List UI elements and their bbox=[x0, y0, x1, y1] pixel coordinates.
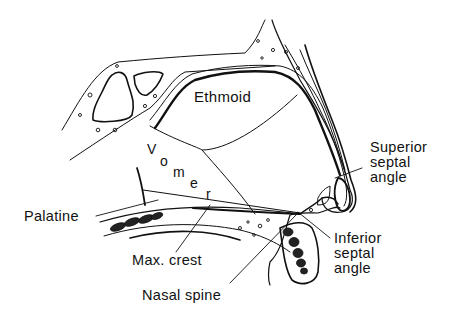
palate-lower-2 bbox=[130, 231, 240, 240]
label-superior-septal-angle: Superior septal angle bbox=[370, 140, 427, 185]
label-vomer-letter-r: r bbox=[206, 186, 211, 202]
label-vomer-letter-v: V bbox=[147, 141, 156, 157]
skull-base-inner bbox=[70, 66, 275, 160]
label-vomer-letter-e: e bbox=[190, 175, 198, 191]
label-max-crest: Max. crest bbox=[132, 253, 202, 268]
septal-flap bbox=[318, 186, 330, 205]
label-inferior-septal-angle: Inferior septal angle bbox=[334, 231, 382, 276]
palatine-curve-a bbox=[137, 168, 145, 205]
label-palatine: Palatine bbox=[24, 209, 79, 224]
sphenoid-sinus-large bbox=[93, 72, 133, 121]
sphenoid-sinus-small bbox=[134, 72, 163, 96]
vomer-posterior-line bbox=[202, 150, 255, 214]
label-ethmoid: Ethmoid bbox=[194, 89, 251, 104]
label-vomer-letter-m: m bbox=[173, 164, 185, 180]
nasal-bone-outer bbox=[272, 20, 352, 212]
ethmoid-upper-border bbox=[155, 71, 340, 175]
leader-max-crest bbox=[176, 205, 210, 252]
leader-palatine bbox=[96, 200, 158, 216]
label-vomer-letter-o: o bbox=[160, 153, 168, 169]
label-nasal-spine: Nasal spine bbox=[142, 288, 221, 303]
